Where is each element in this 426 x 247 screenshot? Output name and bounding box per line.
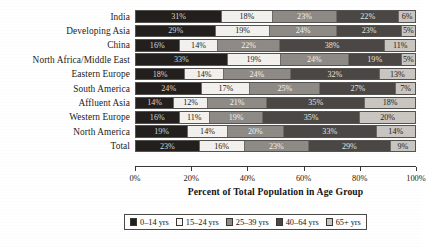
x-axis-tick-label: 60% <box>296 174 311 183</box>
row-label: China <box>0 40 135 50</box>
x-axis-title: Percent of Total Population in Age Group <box>135 186 416 197</box>
bar-segment-label: 24% <box>296 26 311 35</box>
bar-segment: 24% <box>281 54 348 65</box>
bar-segment: 16% <box>135 40 180 51</box>
chart-row: Developing Asia29%19%24%23%5% <box>0 24 421 37</box>
x-axis-tick-labels: 0%20%40%60%80%100% <box>135 174 416 186</box>
legend-item: 0–14 yrs <box>130 218 169 227</box>
bar-segment: 7% <box>396 83 416 94</box>
x-axis-tick <box>360 167 361 171</box>
bar-segment-label: 22% <box>360 12 375 21</box>
bar-segment-label: 13% <box>390 70 405 79</box>
bar-segment: 14% <box>188 126 227 137</box>
stacked-bar: 19%14%20%33%14% <box>135 125 416 138</box>
bar-segment-label: 11% <box>187 113 202 122</box>
bar-segment: 29% <box>135 26 216 37</box>
bar-segment: 19% <box>135 126 188 137</box>
bar-segment: 27% <box>320 83 396 94</box>
bar-segment: 5% <box>402 26 416 37</box>
bar-segment: 12% <box>174 98 208 109</box>
row-label: North Africa/Middle East <box>0 55 135 65</box>
stacked-bar: 33%19%24%19%5% <box>135 53 416 66</box>
chart-row: North Africa/Middle East33%19%24%19%5% <box>0 53 421 66</box>
x-axis-tick-label: 40% <box>240 174 255 183</box>
chart-row: Eastern Europe18%14%24%32%13% <box>0 68 421 81</box>
bar-segment-label: 29% <box>342 142 357 151</box>
bar-segment: 22% <box>218 40 279 51</box>
bar-segment-label: 20% <box>380 113 395 122</box>
x-axis-tick <box>135 167 136 171</box>
bar-segment-label: 5% <box>403 55 414 64</box>
chart-row: South America24%17%25%27%7% <box>0 82 421 95</box>
bar-segment: 19% <box>349 54 402 65</box>
bar-segment: 25% <box>250 83 320 94</box>
stacked-bar: 31%18%23%22%6% <box>135 10 416 23</box>
bar-segment-label: 14% <box>191 41 206 50</box>
bar-segment-label: 33% <box>322 127 337 136</box>
bar-segment-label: 18% <box>383 98 398 107</box>
bar-segment-label: 32% <box>327 70 342 79</box>
bar-segment: 24% <box>224 69 291 80</box>
x-axis-tick-label: 20% <box>184 174 199 183</box>
x-axis-tick-label: 100% <box>406 174 426 183</box>
chart-row: India31%18%23%22%6% <box>0 10 421 23</box>
bar-segment: 35% <box>263 112 360 123</box>
bar-segment: 21% <box>208 98 267 109</box>
row-label: Western Europe <box>0 112 135 122</box>
bar-segment-label: 19% <box>235 26 250 35</box>
bar-segment-label: 7% <box>400 84 411 93</box>
chart-row: Total23%16%23%29%9% <box>0 140 421 153</box>
bar-segment: 16% <box>200 141 245 152</box>
bar-segment: 6% <box>399 11 416 22</box>
chart-row: China16%14%22%38%11% <box>0 39 421 52</box>
legend-swatch-icon <box>130 218 137 225</box>
bar-segment-label: 6% <box>402 12 413 21</box>
stacked-bar: 29%19%24%23%5% <box>135 25 416 38</box>
bar-segment-label: 31% <box>171 12 186 21</box>
bar-segment: 23% <box>245 141 310 152</box>
chart-row: Affluent Asia14%12%21%35%18% <box>0 96 421 109</box>
x-axis: 0%20%40%60%80%100% <box>135 166 416 186</box>
legend-item-label: 25–39 yrs <box>236 218 269 227</box>
x-axis-tick <box>304 167 305 171</box>
bar-segment-label: 21% <box>230 98 245 107</box>
chart-row: North America19%14%20%33%14% <box>0 125 421 138</box>
chart-row: Western Europe16%11%19%35%20% <box>0 111 421 124</box>
bar-segment-label: 19% <box>367 55 382 64</box>
bar-segment: 38% <box>280 40 386 51</box>
bar-segment: 31% <box>135 11 222 22</box>
bar-segment-label: 38% <box>325 41 340 50</box>
bar-segment: 33% <box>284 126 377 137</box>
bar-segment-label: 9% <box>397 142 408 151</box>
bar-segment-label: 23% <box>297 12 312 21</box>
bar-segment: 33% <box>135 54 228 65</box>
legend-item: 40–64 yrs <box>276 218 319 227</box>
bar-segment-label: 14% <box>147 98 162 107</box>
row-label: Total <box>0 141 135 151</box>
bar-segment-label: 14% <box>388 127 403 136</box>
bar-segment-label: 33% <box>174 55 189 64</box>
bar-segment-label: 25% <box>277 84 292 93</box>
bar-segment-label: 18% <box>239 12 254 21</box>
bar-segment: 11% <box>180 112 211 123</box>
stacked-bar: 16%14%22%38%11% <box>135 39 416 52</box>
bar-segment: 23% <box>337 26 402 37</box>
bar-segment: 11% <box>385 40 416 51</box>
bar-segment: 14% <box>135 98 174 109</box>
legend-swatch-icon <box>326 218 333 225</box>
bar-segment-label: 19% <box>246 55 261 64</box>
legend-swatch-icon <box>226 218 233 225</box>
bar-segment-label: 19% <box>229 113 244 122</box>
bar-segment: 19% <box>210 112 263 123</box>
bar-segment: 17% <box>202 83 250 94</box>
bar-segment-label: 18% <box>153 70 168 79</box>
bar-segment-label: 24% <box>307 55 322 64</box>
x-axis-tick <box>191 167 192 171</box>
bar-segment: 16% <box>135 112 180 123</box>
bar-segment-label: 23% <box>269 142 284 151</box>
stacked-bar: 14%12%21%35%18% <box>135 97 416 110</box>
bar-segment: 9% <box>391 141 416 152</box>
bar-segment: 24% <box>270 26 337 37</box>
legend-item-label: 15–24 yrs <box>186 218 219 227</box>
